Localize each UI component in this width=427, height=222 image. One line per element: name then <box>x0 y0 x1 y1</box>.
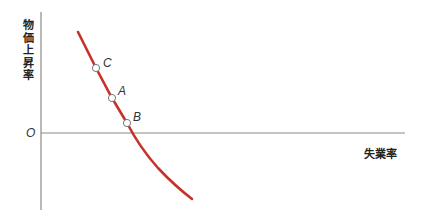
x-axis-label: 失業率 <box>364 145 397 161</box>
y-axis-label-char: 物 <box>21 20 35 33</box>
point-c-label: C <box>103 56 112 70</box>
y-axis-label: 物 価 上 昇 率 <box>21 20 35 83</box>
point-a-marker <box>108 94 115 101</box>
phillips-curve-diagram <box>0 0 427 222</box>
point-a-label: A <box>118 84 126 98</box>
point-c-marker <box>92 64 99 71</box>
point-b-marker <box>123 119 130 126</box>
point-b-label: B <box>133 110 141 124</box>
y-axis-label-char: 上 <box>21 45 35 58</box>
y-axis-label-char: 率 <box>21 70 35 83</box>
origin-label: O <box>26 126 35 140</box>
